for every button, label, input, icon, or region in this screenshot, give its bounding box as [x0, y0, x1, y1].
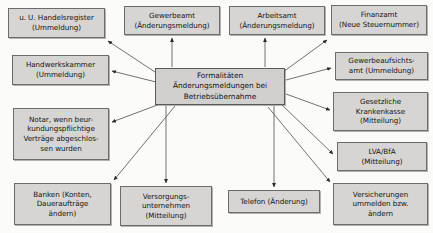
diagram-canvas: FormalitätenÄnderungsmeldungen beiBetrie…	[0, 0, 433, 233]
node-lva-bfa-label: LVA/BfA(Mitteilung)	[340, 147, 424, 166]
node-notar-label: Notar, wenn beur-kundungspflichtigeVertr…	[16, 115, 106, 154]
node-arbeitsamt: Arbeitsamt(Änderungsmeldung)	[229, 6, 325, 35]
node-notar: Notar, wenn beur-kundungspflichtigeVertr…	[13, 108, 109, 160]
node-gewerbeaufsichtsamt-label: Gewerbeaufsichts-amt (Ummeldung)	[338, 56, 425, 75]
node-handwerkskammer-label: Handwerkskammer(Ummeldung)	[15, 60, 106, 79]
node-banken-label: Banken (Konten,Daueraufträgeändern)	[17, 190, 108, 219]
center-hub-label: FormalitätenÄnderungsmeldungen beiBetrie…	[158, 71, 282, 101]
arrow-to-handwerkskammer	[112, 71, 156, 82]
node-telefon: Telefon (Änderung)	[228, 190, 320, 213]
arrow-to-notar	[112, 104, 160, 122]
node-telefon-label: Telefon (Änderung)	[231, 197, 317, 207]
node-versorgungsunternehmen-label: Versorgungs-unternehmen(Mitteilung)	[123, 192, 209, 221]
node-krankenkasse-label: GesetzlicheKrankenkasse(Mitteilung)	[336, 97, 425, 126]
node-handelsregister: u. U. Handelsregister(Ummeldung)	[8, 8, 105, 38]
node-finanzamt-label: Finanzamt(Neue Steuernummer)	[334, 10, 424, 29]
node-gewerbeaufsichtsamt: Gewerbeaufsichts-amt (Ummeldung)	[335, 52, 428, 80]
node-handwerkskammer: Handwerkskammer(Ummeldung)	[12, 55, 109, 85]
node-versicherungen: Versicherungenummelden bzw.ändern	[333, 183, 428, 225]
node-versicherungen-label: Versicherungenummelden bzw.ändern	[336, 190, 425, 219]
arrow-to-gewerbeaufsichtsamt	[286, 68, 331, 80]
node-lva-bfa: LVA/BfA(Mitteilung)	[337, 142, 427, 171]
node-handelsregister-label: u. U. Handelsregister(Ummeldung)	[11, 13, 102, 32]
node-arbeitsamt-label: Arbeitsamt(Änderungsmeldung)	[232, 11, 322, 30]
arrow-to-lva-bfa	[282, 105, 333, 154]
arrow-to-versicherungen	[268, 107, 330, 182]
center-hub: FormalitätenÄnderungsmeldungen beiBetrie…	[155, 68, 285, 105]
node-versorgungsunternehmen: Versorgungs-unternehmen(Mitteilung)	[120, 186, 212, 226]
node-krankenkasse: GesetzlicheKrankenkasse(Mitteilung)	[333, 92, 428, 131]
arrow-to-finanzamt	[283, 40, 327, 72]
arrow-to-handelsregister	[108, 41, 158, 74]
node-finanzamt: Finanzamt(Neue Steuernummer)	[331, 5, 427, 35]
arrow-to-krankenkasse	[286, 94, 330, 110]
node-banken: Banken (Konten,Daueraufträgeändern)	[14, 183, 111, 225]
node-gewerbeamt-label: Gewerbeamt(Änderungsmeldung)	[127, 11, 217, 30]
node-gewerbeamt: Gewerbeamt(Änderungsmeldung)	[124, 6, 220, 35]
